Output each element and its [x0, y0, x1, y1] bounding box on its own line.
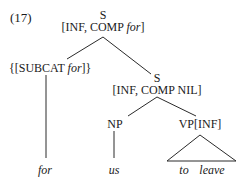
np-node: NP [107, 118, 122, 131]
vp-node: VP[INF] [179, 118, 222, 131]
leaf-to: to [179, 164, 188, 177]
leaf-us: us [109, 164, 120, 177]
root-node-features: [INF, COMP for] [62, 21, 145, 34]
example-number: (17) [10, 11, 32, 24]
embedded-s-features: [INF, COMP NIL] [113, 84, 202, 97]
subcat-node: {[SUBCAT for]} [9, 62, 91, 75]
leaf-for: for [38, 164, 52, 177]
leaf-leave: leave [199, 164, 224, 177]
